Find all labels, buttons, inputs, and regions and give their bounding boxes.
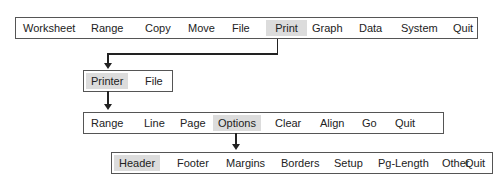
menu-item-quit[interactable]: Quit [390,115,420,131]
menu-item-worksheet[interactable]: Worksheet [18,20,80,36]
menu-item-range[interactable]: Range [86,115,128,131]
arrow-down-icon [104,63,112,69]
menu-item-move[interactable]: Move [183,20,220,36]
menu-item-clear[interactable]: Clear [270,115,306,131]
connector-line [107,91,109,105]
main-menu: Worksheet Range Copy Move File Print Gra… [15,17,478,39]
menu-item-options[interactable]: Options [213,115,261,131]
menu-item-graph[interactable]: Graph [307,20,348,36]
menu-item-quit[interactable]: Quit [448,20,478,36]
menu-item-quit[interactable]: Quit [460,155,490,171]
connector-line [277,39,278,54]
printer-menu: Range Line Page Options Clear Align Go Q… [83,112,444,134]
menu-item-system[interactable]: System [396,20,443,36]
menu-item-margins[interactable]: Margins [221,155,270,171]
options-menu: Header Footer Margins Borders Setup Pg-L… [111,152,493,174]
menu-item-copy[interactable]: Copy [140,20,176,36]
menu-item-line[interactable]: Line [139,115,170,131]
print-menu: Printer File [83,70,173,92]
menu-item-page[interactable]: Page [175,115,211,131]
menu-item-align[interactable]: Align [315,115,349,131]
menu-item-file[interactable]: File [227,20,255,36]
arrow-down-icon [104,104,112,110]
menu-item-print[interactable]: Print [266,20,307,36]
menu-item-header[interactable]: Header [114,155,160,171]
menu-item-file[interactable]: File [140,73,168,89]
arrow-down-icon [232,144,240,150]
menu-item-printer[interactable]: Printer [86,73,128,89]
menu-item-range[interactable]: Range [86,20,128,36]
menu-item-setup[interactable]: Setup [329,155,368,171]
menu-item-borders[interactable]: Borders [276,155,325,171]
menu-item-footer[interactable]: Footer [172,155,214,171]
connector-line [107,53,278,55]
menu-item-pg-length[interactable]: Pg-Length [373,155,434,171]
menu-item-go[interactable]: Go [357,115,382,131]
menu-item-data[interactable]: Data [354,20,387,36]
